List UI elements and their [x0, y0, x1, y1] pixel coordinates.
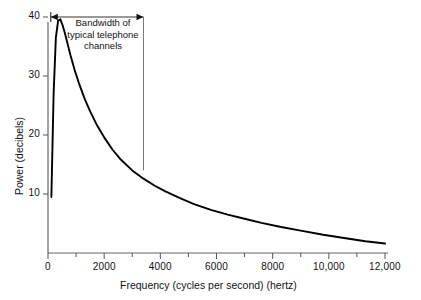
x-tick-label: 12,000 — [360, 261, 410, 272]
annotation-line-2: typical telephone — [28, 29, 178, 41]
chart-figure: Bandwidth of typical telephone channels … — [0, 0, 421, 300]
x-tick-label: 2000 — [79, 261, 129, 272]
x-tick-label: 4000 — [135, 261, 185, 272]
x-tick-label: 6000 — [192, 261, 242, 272]
y-tick-label: 20 — [10, 128, 40, 139]
power-spectrum-curve — [51, 19, 385, 243]
annotation-line-3: channels — [28, 40, 178, 52]
bandwidth-annotation-text: Bandwidth of typical telephone channels — [28, 17, 178, 52]
x-tick-label: 10,000 — [304, 261, 354, 272]
x-axis-label: Frequency (cycles per second) (hertz) — [120, 279, 297, 291]
annotation-line-1: Bandwidth of — [28, 17, 178, 29]
axes-group — [48, 22, 388, 253]
y-tick-label: 40 — [10, 10, 40, 21]
x-axis-ticks — [48, 253, 385, 259]
x-tick-label: 8000 — [248, 261, 298, 272]
y-tick-label: 30 — [10, 69, 40, 80]
y-tick-label: 10 — [10, 187, 40, 198]
x-tick-label: 0 — [23, 261, 73, 272]
